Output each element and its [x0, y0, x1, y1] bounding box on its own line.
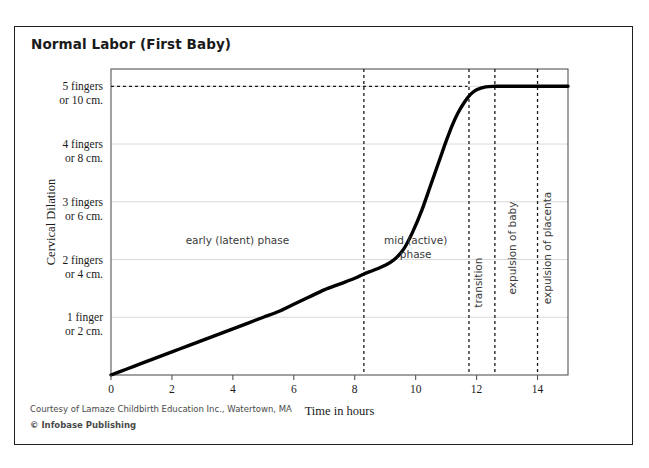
y-tick-label-line: 3 fingers: [62, 196, 103, 209]
plot-frame: [111, 69, 568, 375]
y-tick-label-line: or 4 cm.: [65, 268, 103, 280]
y-tick-label-line: or 2 cm.: [65, 325, 103, 337]
chart-container: 024681012141 fingeror 2 cm.2 fingersor 4…: [15, 27, 634, 446]
y-axis-title: Cervical Dilation: [44, 178, 58, 265]
annotation-line: phase: [400, 248, 432, 260]
y-tick-label-line: or 6 cm.: [65, 210, 103, 222]
x-tick-label-8: 8: [352, 383, 358, 395]
labor-curve-chart: 024681012141 fingeror 2 cm.2 fingersor 4…: [15, 27, 634, 446]
x-tick-label-4: 4: [230, 383, 236, 395]
y-tick-label-line: or 10 cm.: [59, 94, 103, 106]
courtesy-credit: Courtesy of Lamaze Childbirth Education …: [30, 404, 292, 414]
x-tick-label-0: 0: [108, 383, 114, 395]
x-axis-title: Time in hours: [305, 404, 375, 418]
x-tick-label-2: 2: [169, 383, 175, 395]
x-tick-label-12: 12: [471, 383, 483, 395]
x-tick-label-10: 10: [410, 383, 422, 395]
annotation-transition: transition: [472, 258, 484, 308]
y-tick-label-line: or 8 cm.: [65, 152, 103, 164]
y-tick-label-line: 1 finger: [67, 311, 103, 324]
annotation-expulsion-of-baby: expulsion of baby: [506, 201, 518, 294]
annotation-line: mid (active): [384, 234, 447, 246]
labor-curve-line: [111, 86, 568, 375]
annotation-early-latent-phase: early (latent) phase: [186, 234, 290, 246]
y-tick-label-10: 5 fingersor 10 cm.: [59, 80, 103, 106]
y-tick-label-line: 4 fingers: [62, 138, 103, 151]
publisher-credit: © Infobase Publishing: [30, 420, 136, 430]
x-tick-label-14: 14: [532, 383, 544, 395]
y-tick-label-line: 2 fingers: [62, 254, 103, 267]
annotation-expulsion-of-placenta: expulsion of placenta: [541, 192, 553, 304]
annotation-mid-active-phase: mid (active)phase: [384, 234, 447, 260]
y-tick-label-2: 1 fingeror 2 cm.: [65, 311, 103, 337]
annotation-line: early (latent) phase: [186, 234, 290, 246]
x-tick-label-6: 6: [291, 383, 297, 395]
y-tick-label-4: 2 fingersor 4 cm.: [62, 254, 103, 280]
figure-frame: Normal Labor (First Baby) 024681012141 f…: [14, 26, 633, 445]
y-tick-label-6: 3 fingersor 6 cm.: [62, 196, 103, 222]
y-tick-label-line: 5 fingers: [62, 80, 103, 93]
y-tick-label-8: 4 fingersor 8 cm.: [62, 138, 103, 164]
